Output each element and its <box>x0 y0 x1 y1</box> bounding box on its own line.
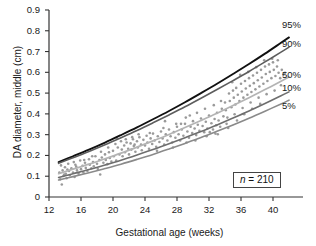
scatter-point <box>277 59 280 62</box>
y-tick-label: 0.5 <box>14 88 40 98</box>
scatter-point <box>129 142 132 145</box>
scatter-point <box>128 153 131 156</box>
scatter-point <box>192 120 195 123</box>
x-axis-title: Gestational age (weeks) <box>49 228 290 238</box>
scatter-point <box>168 128 171 131</box>
scatter-point <box>175 123 178 126</box>
x-axis-ticks <box>49 197 273 201</box>
x-tick-label: 32 <box>198 205 220 215</box>
scatter-point <box>189 114 192 117</box>
scatter-point <box>61 183 64 186</box>
scatter-point <box>137 133 140 136</box>
scatter-points-layer <box>58 58 286 186</box>
scatter-point <box>176 125 179 128</box>
scatter-point <box>254 88 257 91</box>
scatter-point <box>101 156 104 159</box>
scatter-point <box>264 65 267 68</box>
scatter-point <box>205 120 208 123</box>
series-label-95pct: 95% <box>282 20 301 30</box>
y-tick-label: 0.8 <box>14 26 40 36</box>
y-tick-label: 0.6 <box>14 67 40 77</box>
scatter-point <box>108 151 111 154</box>
scatter-point <box>133 143 136 146</box>
scatter-point <box>76 169 79 172</box>
scatter-point <box>177 133 180 136</box>
percentile-curve-10pct <box>59 92 289 178</box>
scatter-point <box>152 132 155 135</box>
scatter-point <box>107 146 110 149</box>
scatter-point <box>94 155 97 158</box>
scatter-point <box>174 136 177 139</box>
scatter-point <box>244 80 247 83</box>
x-tick-label: 28 <box>166 205 188 215</box>
scatter-point <box>145 134 148 137</box>
scatter-point <box>157 135 160 138</box>
scatter-point <box>221 107 224 110</box>
scatter-point <box>233 113 236 116</box>
scatter-point <box>160 130 163 133</box>
x-tick-label: 16 <box>70 205 92 215</box>
scatter-point <box>185 116 188 119</box>
scatter-point <box>217 133 220 136</box>
scatter-point <box>241 107 244 110</box>
x-tick-label: 12 <box>38 205 60 215</box>
scatter-point <box>222 115 225 118</box>
scatter-point <box>149 132 152 135</box>
scatter-point <box>261 76 264 79</box>
scatter-point <box>277 71 280 74</box>
scatter-point <box>136 140 139 143</box>
scatter-point <box>131 136 134 139</box>
scatter-point <box>121 148 124 151</box>
scatter-point <box>249 85 252 88</box>
percentile-curve-95pct <box>59 37 289 162</box>
scatter-point <box>121 155 124 158</box>
scatter-point <box>148 147 151 150</box>
scatter-point <box>164 120 167 123</box>
scatter-point <box>120 140 123 143</box>
scatter-point <box>91 155 94 158</box>
scatter-point <box>220 100 223 103</box>
scatter-point <box>74 163 77 166</box>
scatter-point <box>250 91 253 94</box>
scatter-point <box>141 149 144 152</box>
y-tick-label: 0.2 <box>14 150 40 160</box>
scatter-point <box>252 74 255 77</box>
scatter-point <box>229 100 232 103</box>
scatter-point <box>226 116 229 119</box>
scatter-point <box>257 79 260 82</box>
y-axis-title: DA diameter, middle (cm) <box>13 37 23 167</box>
percentile-curve-90pct <box>59 47 289 163</box>
sample-size-annotation: n = 210 <box>233 172 281 188</box>
percentile-curves-layer <box>59 37 289 180</box>
scatter-point <box>114 143 117 146</box>
y-tick-label: 0.4 <box>14 109 40 119</box>
scatter-point <box>276 65 279 68</box>
scatter-point <box>274 75 277 78</box>
y-tick-label: 0.9 <box>14 5 40 15</box>
scatter-point <box>166 139 169 142</box>
scatter-point <box>241 90 244 93</box>
y-tick-label: 0.1 <box>14 171 40 181</box>
scatter-point <box>210 122 213 125</box>
scatter-point <box>96 162 99 165</box>
scatter-point <box>162 127 165 130</box>
scatter-point <box>84 161 87 164</box>
scatter-point <box>102 161 105 164</box>
scatter-point <box>212 128 215 131</box>
scatter-point <box>182 134 185 137</box>
scatter-point <box>193 127 196 130</box>
scatter-point <box>158 141 161 144</box>
scatter-point <box>232 89 235 92</box>
scatter-point <box>201 125 204 128</box>
scatter-point <box>253 82 256 85</box>
scatter-point <box>224 101 227 104</box>
scatter-point <box>266 80 269 83</box>
scatter-point <box>268 63 271 66</box>
x-tick-label: 20 <box>102 205 124 215</box>
series-label-10pct: 10% <box>282 83 301 93</box>
sample-size-equals: = <box>246 174 257 185</box>
scatter-point <box>258 85 261 88</box>
chart-figure: DA diameter, middle (cm) Gestational age… <box>0 0 316 246</box>
scatter-point <box>233 96 236 99</box>
scatter-point <box>79 159 82 162</box>
